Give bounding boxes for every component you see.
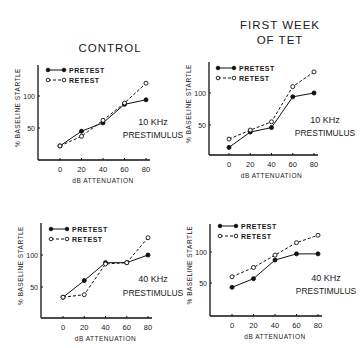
annotation-frequency: 40 KHz xyxy=(138,274,168,284)
legend-label-retest: RETEST xyxy=(241,233,272,240)
annotation-prestimulus: PRESTIMULUS xyxy=(123,130,184,140)
x-axis-label: dB ATTENUATION xyxy=(75,335,136,342)
legend-label-pretest: PRETEST xyxy=(69,67,105,74)
data-point-retest xyxy=(58,144,62,148)
legend-marker xyxy=(46,78,50,82)
annotation-frequency: 10 KHz xyxy=(138,117,168,127)
legend-marker xyxy=(65,227,69,231)
y-tick-label: 100 xyxy=(195,249,207,256)
data-point-retest xyxy=(295,241,299,245)
legend-label-pretest: PRETEST xyxy=(72,226,108,233)
data-point-retest xyxy=(312,70,316,74)
legend-marker xyxy=(216,76,220,80)
legend-label-retest: RETEST xyxy=(239,75,270,82)
x-tick-label: 20 xyxy=(80,323,88,332)
y-tick-label: 50 xyxy=(198,122,206,129)
data-point-retest xyxy=(248,128,252,132)
x-tick-label: 60 xyxy=(289,160,297,169)
y-axis-label: % BASELINE STARTLE xyxy=(186,225,193,304)
x-tick-label: 20 xyxy=(77,165,85,174)
x-tick-label: 20 xyxy=(246,160,254,169)
x-tick-label: 40 xyxy=(101,323,109,332)
x-tick-label: 60 xyxy=(123,323,131,332)
legend-marker xyxy=(232,66,236,70)
legend-marker xyxy=(62,68,66,72)
chart-grid: 02040608050100dB ATTENUATION% BASELINE S… xyxy=(0,0,363,348)
data-point-retest xyxy=(82,293,86,297)
x-tick-label: 20 xyxy=(249,321,257,330)
x-tick-label: 60 xyxy=(292,321,300,330)
legend-label-retest: RETEST xyxy=(72,236,103,243)
y-tick-label: 50 xyxy=(27,125,35,132)
legend-marker xyxy=(46,68,50,72)
y-tick-label: 50 xyxy=(30,284,38,291)
data-point-pretest xyxy=(80,129,84,133)
data-point-retest xyxy=(227,137,231,141)
x-tick-label: 0 xyxy=(58,165,62,174)
data-point-retest xyxy=(123,101,127,105)
annotation-prestimulus: PRESTIMULUS xyxy=(123,288,184,298)
data-point-pretest xyxy=(270,126,274,130)
x-tick-label: 80 xyxy=(314,321,322,330)
annotation-frequency: 40 KHz xyxy=(311,273,341,283)
legend-marker xyxy=(234,224,238,228)
x-tick-label: 40 xyxy=(271,321,279,330)
x-tick-label: 80 xyxy=(142,165,150,174)
data-point-retest xyxy=(273,253,277,257)
chart-panel-4: 02040608050100dB ATTENUATION% BASELINE S… xyxy=(186,223,357,341)
x-tick-label: 80 xyxy=(144,323,152,332)
data-point-pretest xyxy=(273,258,277,262)
data-point-retest xyxy=(252,266,256,270)
legend-label-retest: RETEST xyxy=(69,77,100,84)
legend-label-pretest: PRETEST xyxy=(241,223,277,230)
x-axis-label: dB ATTENUATION xyxy=(72,177,133,184)
legend-label-pretest: PRETEST xyxy=(239,65,275,72)
chart-panel-2: 02040608050100dB ATTENUATION% BASELINE S… xyxy=(185,62,356,179)
data-point-retest xyxy=(291,85,295,89)
legend-marker xyxy=(218,234,222,238)
x-tick-label: 80 xyxy=(310,160,318,169)
data-point-pretest xyxy=(291,95,295,99)
data-point-pretest xyxy=(316,252,320,256)
x-axis-label: dB ATTENUATION xyxy=(241,172,302,179)
data-point-pretest xyxy=(144,98,148,102)
x-tick-label: 0 xyxy=(61,323,65,332)
data-point-pretest xyxy=(252,277,256,281)
x-tick-label: 40 xyxy=(99,165,107,174)
data-point-retest xyxy=(61,295,65,299)
data-point-retest xyxy=(104,262,108,266)
data-point-pretest xyxy=(312,91,316,95)
data-point-retest xyxy=(316,233,320,237)
data-point-pretest xyxy=(146,253,150,257)
y-tick-label: 100 xyxy=(26,252,38,259)
data-point-retest xyxy=(80,134,84,138)
annotation-frequency: 10 KHz xyxy=(310,115,340,125)
y-tick-label: 50 xyxy=(199,280,207,287)
data-point-pretest xyxy=(230,285,234,289)
x-tick-label: 0 xyxy=(227,160,231,169)
legend-marker xyxy=(216,66,220,70)
annotation-prestimulus: PRESTIMULUS xyxy=(296,286,357,296)
x-tick-label: 0 xyxy=(230,321,234,330)
x-axis-label: dB ATTENUATION xyxy=(244,333,305,340)
legend-marker xyxy=(62,78,66,82)
y-axis-label: % BASELINE STARTLE xyxy=(185,64,192,143)
data-point-retest xyxy=(270,120,274,124)
legend-marker xyxy=(49,237,53,241)
data-point-retest xyxy=(101,118,105,122)
legend-marker xyxy=(232,76,236,80)
legend-marker xyxy=(234,234,238,238)
data-point-pretest xyxy=(227,145,231,149)
y-tick-label: 100 xyxy=(194,90,206,97)
data-point-retest xyxy=(230,275,234,279)
chart-panel-3: 02040608050100dB ATTENUATION% BASELINE S… xyxy=(17,223,184,342)
chart-panel-1: 02040608050100dB ATTENUATION% BASELINE S… xyxy=(14,65,184,184)
legend-marker xyxy=(65,237,69,241)
x-tick-label: 40 xyxy=(267,160,275,169)
data-point-retest xyxy=(125,261,129,265)
y-tick-label: 100 xyxy=(23,93,35,100)
x-tick-label: 60 xyxy=(120,165,128,174)
legend-marker xyxy=(49,227,53,231)
data-point-retest xyxy=(144,81,148,85)
annotation-prestimulus: PRESTIMULUS xyxy=(295,128,356,138)
